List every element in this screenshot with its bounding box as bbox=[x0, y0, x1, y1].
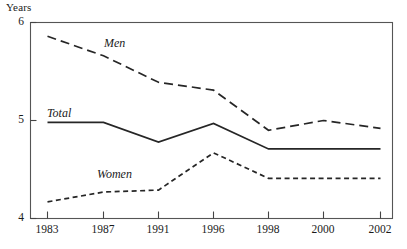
chart-plot-area bbox=[0, 0, 407, 249]
series-label-total: Total bbox=[47, 106, 71, 121]
series-line-men bbox=[48, 36, 381, 130]
x-tick-label-1987: 1987 bbox=[78, 223, 128, 235]
x-tick-label-2000: 2000 bbox=[298, 223, 348, 235]
chart-figure: Years 6 5 4 1983 1987 1991 1996 1998 bbox=[0, 0, 407, 249]
y-tick-label-5: 5 bbox=[2, 113, 24, 125]
x-tick-label-1983: 1983 bbox=[22, 223, 72, 235]
series-line-total bbox=[48, 122, 381, 148]
x-tick-label-1991: 1991 bbox=[133, 223, 183, 235]
x-tick-label-2002: 2002 bbox=[355, 223, 405, 235]
plot-frame bbox=[31, 23, 393, 219]
series-label-women: Women bbox=[97, 167, 132, 182]
y-tick-label-4: 4 bbox=[2, 211, 24, 223]
y-tick-label-6: 6 bbox=[2, 15, 24, 27]
x-tick-label-1996: 1996 bbox=[188, 223, 238, 235]
y-axis-ticks bbox=[31, 23, 37, 219]
x-tick-label-1998: 1998 bbox=[243, 223, 293, 235]
series-label-men: Men bbox=[104, 36, 125, 51]
x-axis-ticks bbox=[48, 212, 381, 219]
